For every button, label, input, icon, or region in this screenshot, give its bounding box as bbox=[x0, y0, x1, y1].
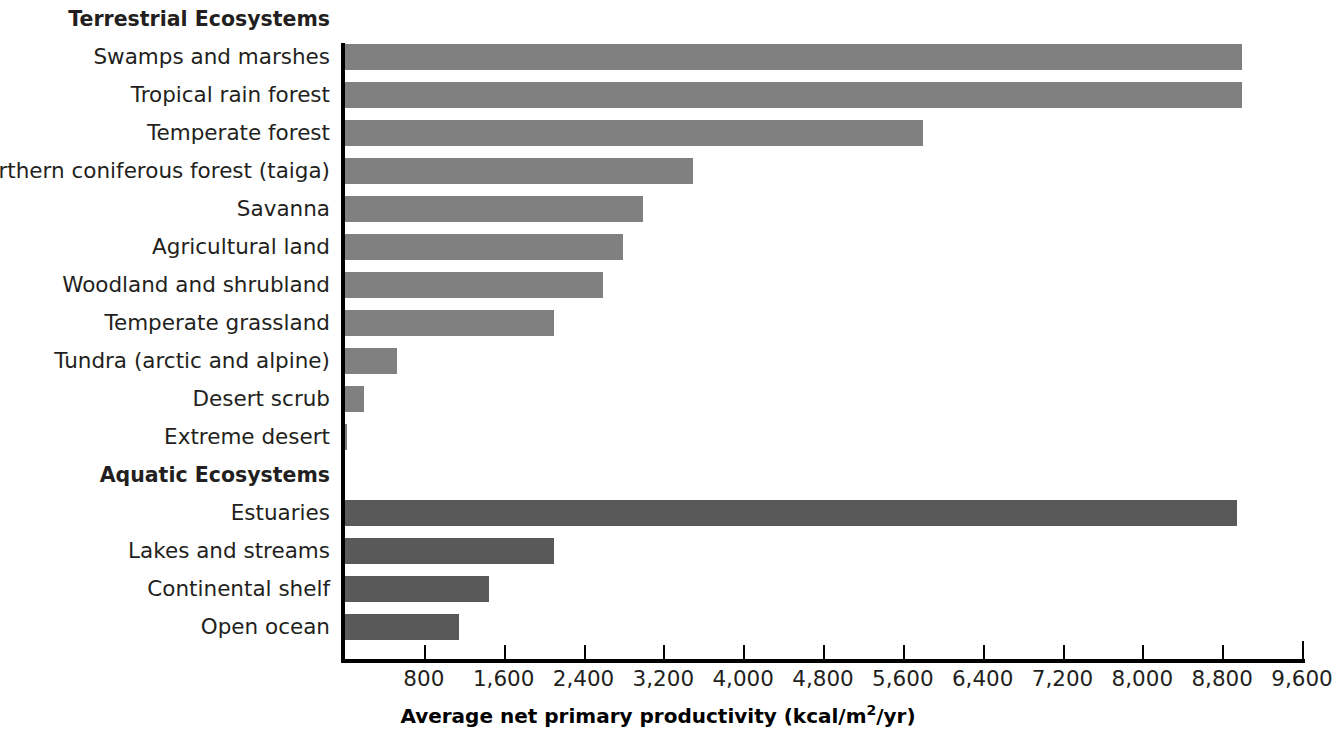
group-label: Terrestrial Ecosystems bbox=[68, 0, 330, 38]
x-tick bbox=[743, 645, 745, 661]
chart-row: Northern coniferous forest (taiga) bbox=[0, 152, 1342, 190]
x-tick bbox=[1142, 645, 1144, 661]
x-tick bbox=[983, 645, 985, 661]
bar bbox=[344, 196, 643, 222]
bar bbox=[344, 538, 554, 564]
chart-row: Agricultural land bbox=[0, 228, 1342, 266]
x-tick bbox=[1302, 641, 1304, 661]
category-label: Temperate grassland bbox=[104, 304, 330, 342]
category-label: Savanna bbox=[237, 190, 330, 228]
x-tick bbox=[903, 645, 905, 661]
bar bbox=[344, 44, 1242, 70]
chart-row: Swamps and marshes bbox=[0, 38, 1342, 76]
category-label: Extreme desert bbox=[164, 418, 330, 456]
chart-row: Extreme desert bbox=[0, 418, 1342, 456]
x-tick bbox=[504, 645, 506, 661]
chart-row: Woodland and shrubland bbox=[0, 266, 1342, 304]
category-label: Tropical rain forest bbox=[131, 76, 330, 114]
chart-row: Temperate grassland bbox=[0, 304, 1342, 342]
bar bbox=[344, 386, 364, 412]
bar bbox=[344, 272, 603, 298]
chart-row: Continental shelf bbox=[0, 570, 1342, 608]
category-label: Continental shelf bbox=[147, 570, 330, 608]
chart-row: Tundra (arctic and alpine) bbox=[0, 342, 1342, 380]
bar bbox=[344, 234, 623, 260]
chart-group-header: Terrestrial Ecosystems bbox=[0, 0, 1342, 38]
category-label: Northern coniferous forest (taiga) bbox=[0, 152, 330, 190]
chart-rows: Terrestrial EcosystemsSwamps and marshes… bbox=[0, 0, 1342, 646]
category-label: Agricultural land bbox=[152, 228, 330, 266]
x-axis-title: Average net primary productivity (kcal/m… bbox=[0, 702, 1316, 728]
bar bbox=[344, 82, 1242, 108]
category-label: Swamps and marshes bbox=[93, 38, 330, 76]
chart-row: Open ocean bbox=[0, 608, 1342, 646]
chart-row: Estuaries bbox=[0, 494, 1342, 532]
bar bbox=[344, 120, 923, 146]
chart-row: Tropical rain forest bbox=[0, 76, 1342, 114]
bar bbox=[344, 310, 554, 336]
category-label: Temperate forest bbox=[147, 114, 330, 152]
bar-chart: Terrestrial EcosystemsSwamps and marshes… bbox=[0, 0, 1342, 744]
chart-row: Lakes and streams bbox=[0, 532, 1342, 570]
category-label: Tundra (arctic and alpine) bbox=[54, 342, 330, 380]
x-tick bbox=[424, 645, 426, 661]
x-tick bbox=[1222, 645, 1224, 661]
x-tick bbox=[823, 645, 825, 661]
chart-row: Savanna bbox=[0, 190, 1342, 228]
bar bbox=[344, 348, 397, 374]
chart-group-header: Aquatic Ecosystems bbox=[0, 456, 1342, 494]
bar bbox=[344, 500, 1237, 526]
category-label: Desert scrub bbox=[193, 380, 330, 418]
x-tick bbox=[663, 645, 665, 661]
x-axis-title-before: Average net primary productivity (kcal/m bbox=[400, 704, 866, 728]
group-label: Aquatic Ecosystems bbox=[100, 456, 330, 494]
category-label: Estuaries bbox=[231, 494, 330, 532]
bar bbox=[344, 158, 693, 184]
chart-row: Desert scrub bbox=[0, 380, 1342, 418]
x-axis-title-after: /yr) bbox=[876, 704, 915, 728]
category-label: Woodland and shrubland bbox=[62, 266, 330, 304]
category-label: Lakes and streams bbox=[128, 532, 330, 570]
x-axis-title-superscript: 2 bbox=[867, 702, 877, 718]
category-label: Open ocean bbox=[201, 608, 330, 646]
chart-row: Temperate forest bbox=[0, 114, 1342, 152]
bar bbox=[344, 614, 459, 640]
x-tick bbox=[1063, 645, 1065, 661]
x-tick-label: 9,600 bbox=[1242, 666, 1342, 691]
x-tick bbox=[584, 645, 586, 661]
y-axis-line bbox=[341, 43, 345, 661]
bar bbox=[344, 576, 489, 602]
